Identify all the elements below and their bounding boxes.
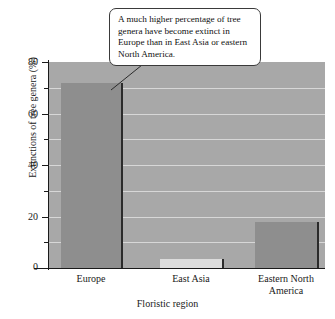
y-tick-70 — [44, 88, 48, 89]
bar-chart-figure: 80 60 40 20 0 Extinctions of tree genera… — [0, 0, 335, 319]
bar-east-asia[interactable] — [160, 259, 224, 268]
y-tick-40 — [42, 165, 48, 166]
y-tick-50 — [44, 139, 48, 140]
x-tick-label-east-asia: East Asia — [141, 273, 241, 285]
y-axis-title: Extinctions of tree genera (%) — [27, 25, 38, 211]
bar-east-asia-edge — [222, 259, 224, 268]
y-tick-80 — [42, 62, 48, 63]
y-tick-10 — [44, 242, 48, 243]
x-tick-label-eastern-north-america-line1: Eastern North — [258, 273, 314, 284]
bar-europe-body — [61, 83, 121, 268]
bar-europe-edge — [121, 83, 123, 268]
bar-eastern-north-america[interactable] — [255, 222, 319, 268]
x-axis-title: Floristic region — [0, 298, 335, 309]
y-tick-30 — [44, 191, 48, 192]
x-axis-line — [34, 268, 325, 269]
x-tick-label-eastern-north-america: Eastern North America — [238, 273, 334, 297]
y-tick-60 — [42, 114, 48, 115]
bar-east-asia-body — [160, 259, 222, 268]
y-tick-0 — [42, 268, 48, 269]
bar-europe[interactable] — [61, 83, 123, 268]
bar-eastern-north-america-edge — [317, 222, 319, 268]
y-tick-label-0: 0 — [18, 262, 38, 272]
plot-area — [49, 62, 325, 268]
x-tick-label-eastern-north-america-line2: America — [269, 285, 303, 296]
x-tick-label-europe: Europe — [41, 273, 141, 285]
y-tick-20 — [42, 217, 48, 218]
bar-eastern-north-america-body — [255, 222, 317, 268]
callout-pointer-line — [108, 64, 144, 92]
y-tick-label-20: 20 — [18, 212, 38, 222]
callout-annotation: A much higher percentage of tree genera … — [109, 8, 261, 66]
y-axis-line — [48, 60, 49, 270]
